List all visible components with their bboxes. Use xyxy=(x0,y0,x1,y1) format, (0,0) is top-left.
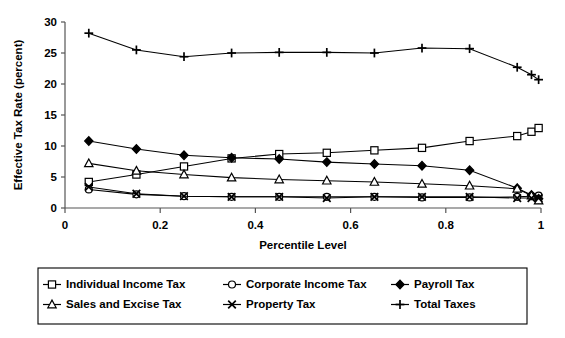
marker-circle xyxy=(514,193,521,200)
legend-label: Corporate Income Tax xyxy=(246,278,367,290)
y-tick-label: 15 xyxy=(44,109,57,121)
effective-tax-rate-line-chart: 05101520253000.20.40.60.81Percentile Lev… xyxy=(0,0,565,338)
marker-square xyxy=(535,124,542,131)
series-group xyxy=(84,29,543,204)
marker-diamond xyxy=(418,162,426,171)
marker-diamond xyxy=(466,166,474,175)
series-payroll-tax xyxy=(85,137,543,203)
x-tick-label: 0.8 xyxy=(438,219,455,231)
marker-square xyxy=(466,137,473,144)
y-tick-label: 20 xyxy=(44,78,57,90)
legend-label: Individual Income Tax xyxy=(66,278,186,290)
x-tick-label: 0.2 xyxy=(152,219,168,231)
x-tick-label: 0.4 xyxy=(247,219,264,231)
marker-diamond xyxy=(370,160,378,169)
series-line xyxy=(89,33,539,80)
legend: Individual Income TaxCorporate Income Ta… xyxy=(38,268,527,324)
series-total-taxes xyxy=(84,29,543,84)
x-axis-ticks: 00.20.40.60.81 xyxy=(62,208,545,231)
x-tick-label: 0.6 xyxy=(343,219,359,231)
chart-container: 05101520253000.20.40.60.81Percentile Lev… xyxy=(0,0,565,338)
y-axis-title: Effective Tax Rate (percent) xyxy=(12,40,24,191)
marker-square xyxy=(48,281,55,288)
marker-diamond xyxy=(323,158,331,167)
marker-diamond xyxy=(132,145,140,154)
marker-square xyxy=(418,144,425,151)
marker-square xyxy=(323,149,330,156)
x-tick-label: 0 xyxy=(62,219,68,231)
legend-border xyxy=(38,268,527,324)
y-tick-label: 0 xyxy=(51,202,57,214)
marker-circle xyxy=(323,193,330,200)
x-axis-title: Percentile Level xyxy=(259,239,347,251)
marker-square xyxy=(514,132,521,139)
x-tick-label: 1 xyxy=(538,219,545,231)
marker-diamond xyxy=(180,151,188,160)
series-individual-income-tax xyxy=(85,124,542,185)
marker-square xyxy=(528,128,535,135)
y-tick-label: 25 xyxy=(44,47,57,59)
y-tick-label: 5 xyxy=(51,171,58,183)
y-tick-label: 30 xyxy=(44,16,57,28)
marker-diamond xyxy=(85,137,93,146)
legend-label: Sales and Excise Tax xyxy=(66,298,182,310)
marker-square xyxy=(371,147,378,154)
legend-label: Property Tax xyxy=(246,298,316,310)
legend-label: Payroll Tax xyxy=(414,278,475,290)
y-axis-ticks: 051015202530 xyxy=(44,16,65,214)
y-tick-label: 10 xyxy=(44,140,57,152)
legend-label: Total Taxes xyxy=(414,298,476,310)
marker-circle xyxy=(229,281,236,288)
series-line xyxy=(89,128,539,182)
marker-triangle xyxy=(85,159,93,167)
